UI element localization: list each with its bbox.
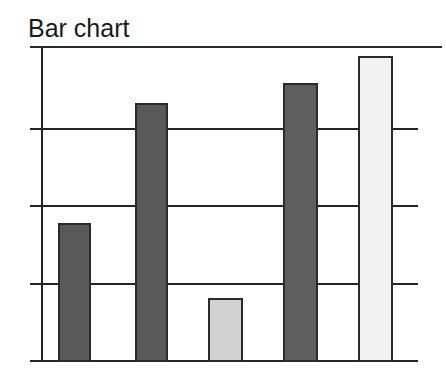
bar-4[interactable] (283, 83, 318, 362)
bar-5[interactable] (358, 56, 393, 362)
plot-area (0, 0, 446, 386)
bar-chart-figure: Bar chart (0, 0, 446, 386)
y-axis-spine (41, 46, 43, 362)
bar-3[interactable] (208, 298, 243, 362)
bar-2[interactable] (135, 103, 168, 362)
gridline-top (30, 46, 442, 48)
bar-1[interactable] (58, 223, 91, 362)
